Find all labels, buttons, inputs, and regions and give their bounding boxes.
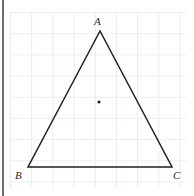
interior-point-marker <box>98 101 101 104</box>
vertex-label-a: A <box>94 16 101 27</box>
geometry-figure: A B C <box>0 0 194 196</box>
geometry-canvas <box>0 0 194 196</box>
vertex-label-b: B <box>15 170 22 181</box>
triangle-abc <box>28 31 172 167</box>
vertex-label-c: C <box>173 170 180 181</box>
